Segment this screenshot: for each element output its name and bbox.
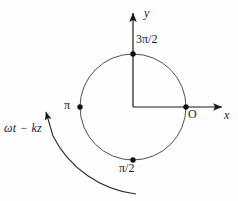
phase-annotation-label: ωt − kz: [4, 122, 42, 134]
x-axis-label: x: [224, 109, 229, 121]
rotation-arrow: [46, 112, 136, 194]
y-axis-label: y: [144, 7, 149, 19]
origin-label: O: [188, 108, 197, 120]
marker-label-top: 3π/2: [136, 33, 157, 45]
phasor-circle-figure: y x O 3π/2 π π/2 ωt − kz: [0, 0, 238, 201]
marker-label-left: π: [64, 99, 70, 111]
marker-dot-left: [77, 104, 82, 109]
marker-label-bottom: π/2: [119, 162, 134, 174]
marker-dot-top: [130, 51, 135, 56]
